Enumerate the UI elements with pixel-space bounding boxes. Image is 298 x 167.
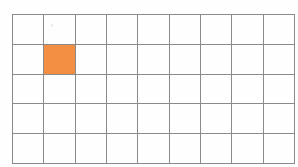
grid-cell-r4-c7[interactable] xyxy=(200,104,231,134)
grid-cell-r4-c3[interactable] xyxy=(75,104,106,134)
grid-cell-r5-c8[interactable] xyxy=(232,134,263,164)
grid-cell-r3-c4[interactable] xyxy=(106,74,137,104)
grid-cell-r2-c6[interactable] xyxy=(169,44,200,74)
grid-cell-r2-c4[interactable] xyxy=(106,44,137,74)
grid-cell-r1-c2[interactable] xyxy=(44,15,75,45)
grid-cell-r3-c8[interactable] xyxy=(232,74,263,104)
grid-cell-r2-c1[interactable] xyxy=(13,44,44,74)
grid-cell-r3-c9[interactable] xyxy=(263,74,294,104)
grid-row xyxy=(13,74,295,104)
grid-cell-r5-c5[interactable] xyxy=(138,134,169,164)
grid-cell-r1-c5[interactable] xyxy=(138,15,169,45)
grid-cell-r3-c5[interactable] xyxy=(138,74,169,104)
grid-cell-r4-c9[interactable] xyxy=(263,104,294,134)
grid-cell-r2-c8[interactable] xyxy=(232,44,263,74)
grid-cell-r3-c2[interactable] xyxy=(44,74,75,104)
grid-cell-r2-c9[interactable] xyxy=(263,44,294,74)
grid-cell-r2-c7[interactable] xyxy=(200,44,231,74)
grid-row xyxy=(13,44,295,74)
grid-cell-r5-c3[interactable] xyxy=(75,134,106,164)
grid-row xyxy=(13,134,295,164)
grid-cell-r1-c8[interactable] xyxy=(232,15,263,45)
grid-canvas xyxy=(0,0,298,167)
grid-cell-r4-c1[interactable] xyxy=(13,104,44,134)
grid-cell-r5-c2[interactable] xyxy=(44,134,75,164)
grid-cell-r3-c6[interactable] xyxy=(169,74,200,104)
grid-cell-r5-c1[interactable] xyxy=(13,134,44,164)
grid-cell-r2-c5[interactable] xyxy=(138,44,169,74)
rectangular-grid[interactable] xyxy=(12,14,295,164)
grid-cell-r4-c6[interactable] xyxy=(169,104,200,134)
grid-cell-r1-c9[interactable] xyxy=(263,15,294,45)
grid-cell-r1-c4[interactable] xyxy=(106,15,137,45)
grid-cell-r3-c3[interactable] xyxy=(75,74,106,104)
grid-cell-r4-c5[interactable] xyxy=(138,104,169,134)
grid-cell-r5-c7[interactable] xyxy=(200,134,231,164)
grid-cell-r4-c4[interactable] xyxy=(106,104,137,134)
grid-cell-r3-c1[interactable] xyxy=(13,74,44,104)
grid-cell-r1-c7[interactable] xyxy=(200,15,231,45)
grid-cell-r5-c6[interactable] xyxy=(169,134,200,164)
grid-cell-r4-c8[interactable] xyxy=(232,104,263,134)
grid-row xyxy=(13,104,295,134)
grid-cell-r1-c6[interactable] xyxy=(169,15,200,45)
grid-cell-filled-r2-c2[interactable] xyxy=(44,44,75,74)
grid-row xyxy=(13,15,295,45)
grid-cell-r4-c2[interactable] xyxy=(44,104,75,134)
grid-cell-r5-c4[interactable] xyxy=(106,134,137,164)
grid-cell-r1-c3[interactable] xyxy=(75,15,106,45)
grid-cell-r2-c3[interactable] xyxy=(75,44,106,74)
grid-cell-r5-c9[interactable] xyxy=(263,134,294,164)
grid-cell-r1-c1[interactable] xyxy=(13,15,44,45)
grid-cell-r3-c7[interactable] xyxy=(200,74,231,104)
